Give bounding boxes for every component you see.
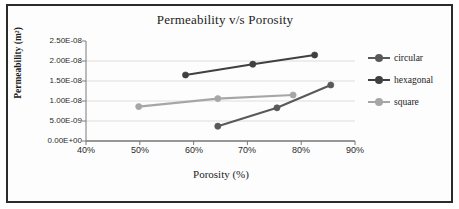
legend-swatch-circular-icon (368, 53, 390, 63)
legend-swatch-hexagonal-icon (368, 75, 390, 85)
gridlines (86, 61, 355, 141)
legend-label: hexagonal (394, 75, 433, 85)
series-layer (136, 52, 334, 129)
chart-legend: circular hexagonal square (368, 47, 452, 113)
legend-swatch-square-icon (368, 97, 390, 107)
legend-item-circular[interactable]: circular (368, 47, 452, 69)
series-circular (215, 82, 334, 129)
legend-label: circular (394, 53, 423, 63)
series-hexagonal (182, 52, 317, 78)
screenshot-root: Permeability v/s Porosity Permeability (… (0, 0, 459, 209)
legend-item-square[interactable]: square (368, 91, 452, 113)
legend-item-hexagonal[interactable]: hexagonal (368, 69, 452, 91)
chart-container: Permeability v/s Porosity Permeability (… (0, 0, 459, 209)
legend-label: square (394, 97, 419, 107)
